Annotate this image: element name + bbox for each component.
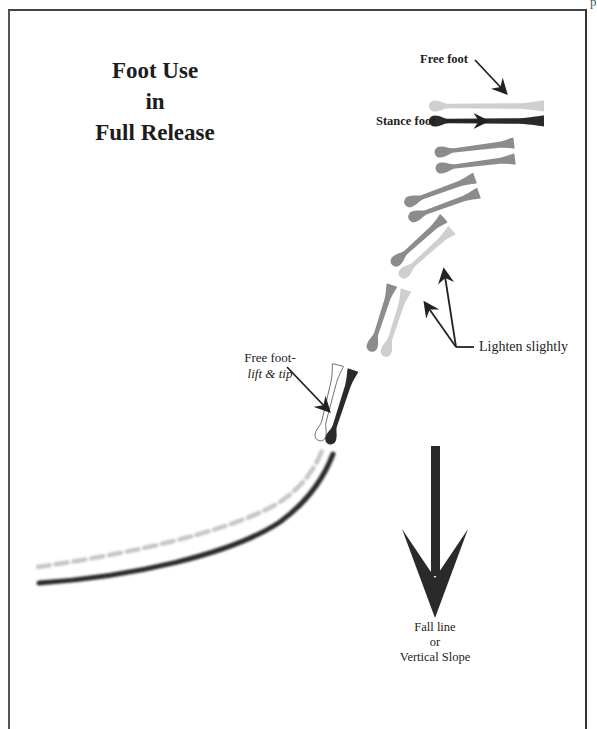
- foot-shape: [403, 173, 477, 209]
- lighten-slightly-pointer-arrow-upper: [444, 270, 456, 347]
- lift-and-tip-line: lift & tip: [230, 366, 310, 382]
- foot-shape: [434, 138, 515, 159]
- foot-shape: [379, 288, 411, 358]
- ski-track-group: [38, 448, 333, 583]
- free-foot-lift-line: Free foot-: [230, 350, 310, 366]
- foot-shape: [365, 283, 397, 353]
- feet-layer: [314, 101, 544, 446]
- free-foot-label: Free foot: [420, 51, 468, 67]
- lighten-slightly-label: Lighten slightly: [479, 339, 568, 355]
- foot-pair2-lower: [435, 154, 516, 175]
- fall-line-arrow: [402, 446, 468, 618]
- fall-line-line: Fall line: [385, 620, 485, 635]
- foot-pair5-lower: [379, 288, 411, 358]
- stance-foot-label: Stance foot: [376, 113, 435, 129]
- free-foot-track: [38, 448, 323, 567]
- free-foot-lift-label: Free foot- lift & tip: [230, 350, 310, 382]
- foot-pair3-upper: [403, 173, 477, 209]
- foot-shape: [429, 101, 544, 112]
- or-line: or: [385, 635, 485, 650]
- foot-pair5-upper: [365, 283, 397, 353]
- foot-pair2-upper: [434, 138, 515, 159]
- stance-foot-track: [39, 454, 333, 583]
- foot-shape: [435, 154, 516, 175]
- foot-top-free: [429, 101, 544, 112]
- vertical-slope-line: Vertical Slope: [385, 650, 485, 665]
- free-foot-pointer-arrow: [475, 60, 506, 93]
- foot-pair6-free: [314, 364, 344, 442]
- foot-shape: [314, 364, 344, 442]
- fall-line-label: Fall line or Vertical Slope: [385, 620, 485, 665]
- lighten-slightly-pointer-arrow-lower: [425, 303, 456, 347]
